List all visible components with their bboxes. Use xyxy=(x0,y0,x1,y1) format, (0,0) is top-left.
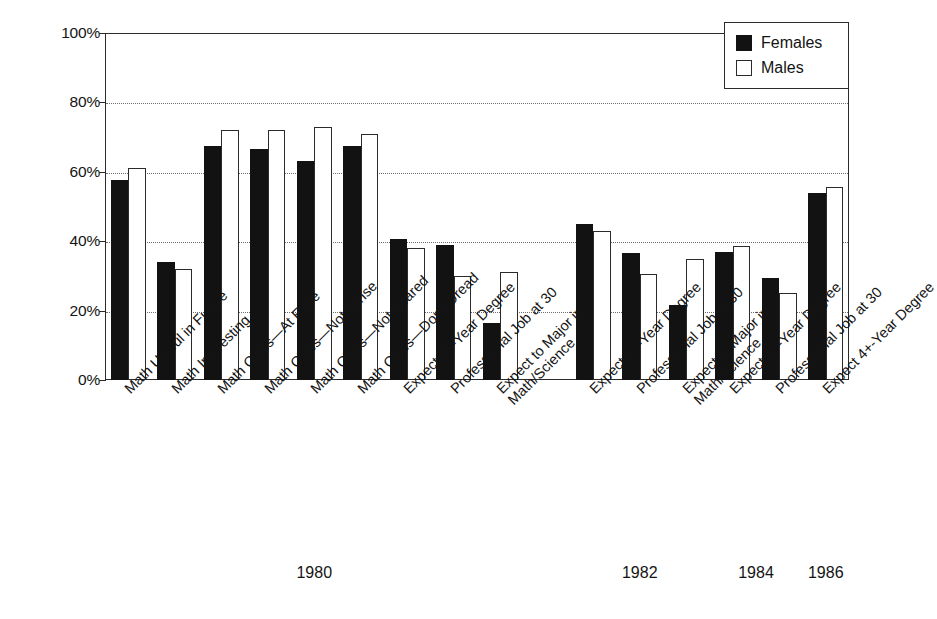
y-tick-label: 0% xyxy=(48,372,100,388)
bar-females xyxy=(576,224,593,380)
y-tick-label: 80% xyxy=(48,94,100,110)
legend-label-males: Males xyxy=(761,60,804,76)
x-axis-category-labels: Math Useful in FutureMath InterestingMat… xyxy=(105,380,849,560)
group-year-label: 1986 xyxy=(808,564,844,582)
group-year-label: 1980 xyxy=(296,564,332,582)
y-tick-label: 60% xyxy=(48,164,100,180)
group-year-label: 1984 xyxy=(738,564,774,582)
y-tick-label: 20% xyxy=(48,303,100,319)
y-axis: 100%80%60%40%20%0% xyxy=(44,0,100,619)
y-tick-label: 40% xyxy=(48,233,100,249)
legend-item-females: Females xyxy=(736,30,839,55)
bar-males xyxy=(407,248,424,380)
legend-item-males: Males xyxy=(736,55,839,80)
bar-females xyxy=(111,180,128,380)
y-tick-label: 100% xyxy=(48,25,100,41)
legend: Females Males xyxy=(724,22,849,89)
legend-label-females: Females xyxy=(761,35,822,51)
legend-swatch-females-icon xyxy=(736,35,752,51)
group-year-label: 1982 xyxy=(622,564,658,582)
bar-males xyxy=(128,168,145,380)
legend-swatch-males-icon xyxy=(736,60,752,76)
x-axis-group-labels: 1980198219841986 xyxy=(105,564,849,594)
bar-males xyxy=(593,231,610,380)
